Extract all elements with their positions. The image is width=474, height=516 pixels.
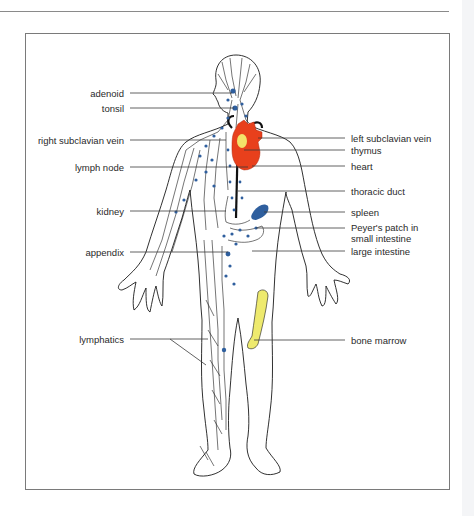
heart-shape [232, 120, 262, 170]
label-thymus: thymus [351, 145, 382, 156]
label-right-subclavian-vein: right subclavian vein [38, 135, 124, 146]
label-kidney: kidney [97, 206, 124, 217]
label-thoracic-duct: thoracic duct [351, 186, 405, 197]
label-bone-marrow: bone marrow [351, 335, 406, 346]
lymphatic-vessels [150, 58, 264, 466]
label-heart: heart [351, 161, 373, 172]
body-illustration [0, 0, 474, 516]
label-appendix: appendix [85, 247, 124, 258]
label-left-subclavian-vein: left subclavian vein [351, 133, 431, 144]
label-lymph-node: lymph node [75, 162, 124, 173]
thymus-shape [237, 134, 247, 148]
label-spleen: spleen [351, 207, 379, 218]
body-outline [118, 55, 349, 476]
label-peyers-patch: Peyer's patch in [351, 222, 418, 233]
label-lymphatics: lymphatics [79, 334, 124, 345]
label-large-intestine: large intestine [351, 246, 410, 257]
label-peyers-patch-line2: small intestine [351, 233, 411, 244]
label-adenoid: adenoid [90, 88, 124, 99]
label-tonsil: tonsil [102, 103, 124, 114]
